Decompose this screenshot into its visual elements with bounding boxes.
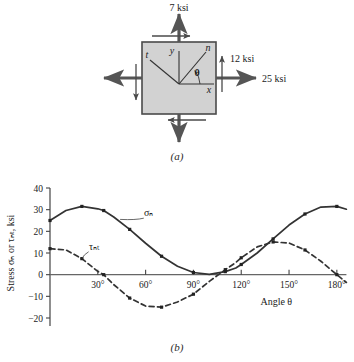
data-point [272,240,275,243]
stress-element-diagram: 7 ksi 25 ksi 12 ksi y n t x θ [0,0,354,150]
data-point [192,293,195,296]
data-point [102,273,105,276]
x-tick-label: 60° [139,280,153,290]
data-point [335,205,338,208]
data-point [160,306,163,309]
y-tick-label: 40 [34,184,44,194]
x-tick-label: 180° [328,280,346,290]
data-point [303,212,306,215]
y-tick-label: 0 [38,270,43,280]
x-tick-label: 120° [232,280,250,290]
data-point [160,255,163,258]
label-axis-x: x [206,84,212,95]
y-tick-label: −20 [28,314,43,324]
x-tick-label: 150° [280,280,298,290]
data-point [224,268,227,271]
x-tick-label: 30° [91,280,105,290]
data-point [128,296,131,299]
label-theta: θ [194,67,199,78]
label-axis-y: y [169,45,175,56]
data-point [128,228,131,231]
y-tick-label: −10 [28,292,43,302]
label-sigma-y-value: 7 ksi [169,2,188,13]
data-point [240,263,243,266]
y-tick-label: 10 [34,249,44,259]
data-point [48,219,51,222]
x-axis-title: Angle θ [260,296,292,307]
leader-line-sigma-n [120,218,144,219]
label-axis-n: n [206,42,211,53]
figure-container: 7 ksi 25 ksi 12 ksi y n t x θ (a) −20−10… [0,0,354,362]
data-point [335,273,338,276]
caption-b: (b) [0,341,354,353]
label-tau-value: 12 ksi [230,53,254,64]
caption-a: (a) [0,150,354,162]
data-point [80,205,83,208]
y-tick-label: 20 [34,227,44,237]
label-axis-t: t [146,49,149,60]
label-sigma-x-value: 25 ksi [262,73,286,84]
data-point [240,256,243,259]
series-label-sigma-n: σₙ [144,207,153,218]
data-point [192,271,195,274]
data-point [272,237,275,240]
x-tick-label: 90° [187,280,201,290]
stress-vs-angle-chart: −20−1001020304030°60°90°120°150°180°σₙτₙ… [0,178,354,353]
series-label-tau-nt: τₙₜ [89,241,100,252]
data-point [303,248,306,251]
data-point [48,247,51,250]
y-axis-title: Stress σₙ or τₙₜ, ksi [5,214,16,291]
y-tick-label: 30 [34,205,44,215]
data-point [102,209,105,212]
